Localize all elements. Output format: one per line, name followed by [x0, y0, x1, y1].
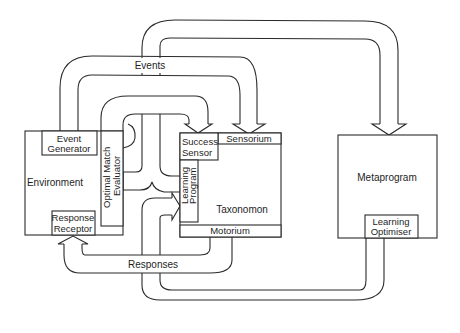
metaprogram-block: Metaprogram Learning Optimiser: [338, 135, 437, 238]
taxonomon-block: Taxonomon Sensorium Success Sensor Learn…: [179, 133, 281, 237]
environment-label: Environment: [27, 177, 83, 188]
events-to-metaprogram-channel: [142, 20, 406, 135]
response-receptor-label-2: Receptor: [54, 223, 93, 234]
response-receptor-label-1: Response: [52, 212, 95, 223]
responses-to-learning-program: [142, 193, 180, 255]
success-sensor-label-2: Sensor: [182, 147, 212, 158]
learning-program-label-2: Program: [187, 167, 198, 204]
taxonomon-label: Taxonomon: [216, 204, 268, 215]
metaprogram-label: Metaprogram: [357, 172, 416, 183]
success-sensor-label-1: Success: [182, 136, 218, 147]
sensorium-label: Sensorium: [226, 133, 271, 144]
central-junction: [123, 114, 180, 192]
environment-block: Environment Event Generator Response Rec…: [25, 131, 123, 235]
motorium-label: Motorium: [210, 225, 250, 236]
optimal-match-evaluator-label-2: Evaluator: [111, 156, 122, 196]
evaluator-to-success-sensor-channel: [101, 96, 212, 133]
events-label: Events: [135, 60, 166, 71]
responses-label: Responses: [128, 259, 178, 270]
event-generator-label-2: Generator: [48, 143, 91, 154]
learning-optimiser-label-2: Optimiser: [371, 226, 412, 237]
